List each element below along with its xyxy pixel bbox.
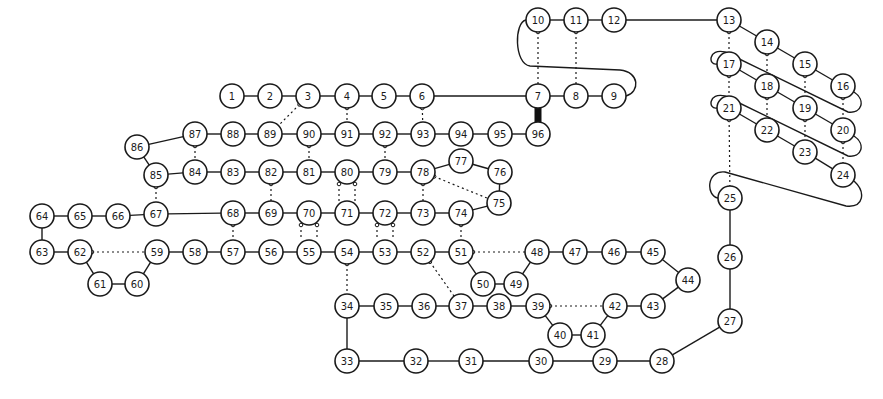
node-label: 40 — [554, 329, 567, 342]
node-67: 67 — [144, 202, 168, 226]
node-label: 3 — [305, 90, 311, 103]
node-label: 83 — [227, 166, 240, 179]
node-52: 52 — [411, 240, 435, 264]
node-label: 5 — [381, 90, 387, 103]
node-3: 3 — [296, 84, 320, 108]
node-91: 91 — [335, 122, 359, 146]
node-4: 4 — [335, 84, 359, 108]
node-37: 37 — [449, 294, 473, 318]
node-40: 40 — [548, 323, 572, 347]
node-label: 71 — [341, 207, 354, 220]
node-label: 75 — [493, 197, 506, 210]
edge-18-19 — [777, 92, 794, 102]
edge-48-49 — [523, 262, 531, 274]
edge-21-22 — [739, 114, 756, 124]
node-31: 31 — [459, 349, 483, 373]
node-58: 58 — [183, 240, 207, 264]
node-label: 53 — [379, 246, 392, 259]
node-label: 55 — [303, 246, 316, 259]
node-77: 77 — [449, 149, 473, 173]
node-45: 45 — [641, 240, 665, 264]
node-76: 76 — [488, 160, 512, 184]
node-label: 80 — [341, 166, 354, 179]
node-label: 25 — [724, 192, 737, 205]
node-label: 26 — [724, 251, 737, 264]
node-label: 89 — [264, 128, 277, 141]
dashed-edge-52-37 — [430, 262, 454, 296]
edge-86-87 — [149, 137, 184, 145]
node-label: 39 — [532, 300, 545, 313]
node-label: 85 — [150, 169, 163, 182]
node-27: 27 — [718, 309, 742, 333]
node-53: 53 — [373, 240, 397, 264]
node-48: 48 — [525, 240, 549, 264]
node-84: 84 — [183, 160, 207, 184]
node-label: 42 — [609, 300, 622, 313]
node-label: 24 — [837, 169, 850, 182]
node-57: 57 — [221, 240, 245, 264]
dashed-edge-21-25 — [729, 120, 730, 186]
node-25: 25 — [718, 186, 742, 210]
node-label: 63 — [36, 246, 49, 259]
node-38: 38 — [487, 294, 511, 318]
node-label: 15 — [799, 58, 812, 71]
node-label: 14 — [761, 36, 774, 49]
node-label: 45 — [647, 246, 660, 259]
solid-edges — [42, 20, 833, 361]
edge-59-60 — [143, 262, 150, 274]
node-86: 86 — [125, 135, 149, 159]
node-label: 92 — [379, 128, 392, 141]
node-label: 84 — [189, 166, 202, 179]
node-41: 41 — [581, 323, 605, 347]
node-47: 47 — [563, 240, 587, 264]
node-68: 68 — [221, 201, 245, 225]
node-label: 32 — [410, 355, 423, 368]
node-74: 74 — [449, 201, 473, 225]
node-label: 2 — [267, 90, 273, 103]
node-24: 24 — [831, 163, 855, 187]
node-label: 19 — [799, 102, 812, 115]
node-10: 10 — [526, 8, 550, 32]
node-78: 78 — [411, 160, 435, 184]
node-1: 1 — [220, 84, 244, 108]
node-label: 68 — [227, 207, 240, 220]
node-51: 51 — [449, 240, 473, 264]
node-79: 79 — [373, 160, 397, 184]
node-29: 29 — [593, 349, 617, 373]
edge-14-15 — [777, 48, 794, 58]
node-label: 1 — [229, 90, 235, 103]
node-61: 61 — [88, 272, 112, 296]
node-39: 39 — [526, 294, 550, 318]
node-18: 18 — [755, 74, 779, 98]
node-label: 10 — [532, 14, 545, 27]
node-label: 86 — [131, 141, 144, 154]
node-label: 72 — [379, 207, 392, 220]
node-92: 92 — [373, 122, 397, 146]
node-62: 62 — [68, 240, 92, 264]
node-label: 51 — [455, 246, 468, 259]
edge-66-67 — [130, 215, 144, 216]
edge-43-44 — [663, 287, 679, 299]
node-6: 6 — [410, 84, 434, 108]
node-label: 69 — [265, 207, 278, 220]
node-7: 7 — [526, 84, 550, 108]
node-label: 78 — [417, 166, 430, 179]
node-2: 2 — [258, 84, 282, 108]
edge-19-20 — [815, 114, 832, 124]
node-label: 88 — [227, 128, 240, 141]
node-70: 70 — [297, 201, 321, 225]
node-label: 8 — [573, 90, 579, 103]
node-label: 16 — [837, 80, 850, 93]
edge-39-40 — [545, 316, 552, 326]
edge-67-68 — [168, 213, 221, 214]
node-label: 17 — [723, 58, 736, 71]
node-label: 37 — [455, 300, 468, 313]
edge-74-75 — [473, 206, 488, 210]
node-42: 42 — [603, 294, 627, 318]
edge-61-62 — [86, 262, 93, 274]
node-label: 54 — [341, 246, 354, 259]
node-label: 81 — [303, 166, 316, 179]
edge-22-23 — [777, 136, 794, 146]
node-label: 79 — [379, 166, 392, 179]
node-label: 18 — [761, 80, 774, 93]
